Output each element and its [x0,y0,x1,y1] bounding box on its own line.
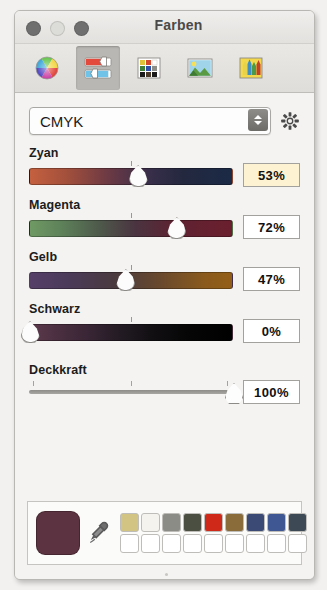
slider-group-magenta: Magenta 72% [29,198,300,239]
sliders-icon [82,53,114,83]
swatch-item-empty[interactable] [225,534,244,553]
slider-track-black[interactable] [29,320,233,342]
swatch-grid [120,513,307,553]
chevron-updown-icon[interactable] [248,109,268,131]
toolbar-item-crayons[interactable] [229,46,273,90]
swatch-item-empty[interactable] [246,534,265,553]
slider-value-black[interactable]: 0% [243,319,300,343]
slider-group-black: Schwarz 0% [29,302,300,343]
swatch-item[interactable] [120,513,139,532]
toolbar-item-color-palettes[interactable] [127,46,171,90]
opacity-tick [131,381,132,386]
slider-label-yellow: Gelb [29,250,300,264]
slider-group-opacity: Deckkraft 100% [29,363,300,404]
swatch-item-empty[interactable] [162,534,181,553]
swatch-item-empty[interactable] [141,534,160,553]
opacity-track-line [29,390,233,394]
slider-track-yellow[interactable] [29,268,233,290]
opacity-tick [227,381,228,386]
current-color-preview[interactable] [36,511,80,555]
toolbar-item-image-palettes[interactable] [178,46,222,90]
swatch-row-empty [120,534,307,553]
color-panel-window: Farben [14,10,315,580]
gear-icon[interactable] [280,111,300,131]
swatch-item-empty[interactable] [204,534,223,553]
color-model-value: CMYK [30,113,83,130]
slider-tick [131,265,132,270]
opacity-tick [33,381,34,386]
swatch-item[interactable] [246,513,265,532]
color-model-dropdown[interactable]: CMYK [29,107,271,135]
swatch-bar [27,501,302,565]
slider-track-magenta[interactable] [29,216,233,238]
panel-body: CMYK [15,93,314,579]
slider-value-cyan[interactable]: 53% [243,163,300,187]
color-model-row: CMYK [29,93,300,135]
slider-thumb-opacity[interactable] [225,383,243,404]
slider-label-opacity: Deckkraft [29,363,300,377]
slider-gradient-black [29,324,233,341]
resize-grip[interactable] [165,573,168,576]
slider-track-cyan[interactable] [29,164,233,186]
slider-group-yellow: Gelb 47% [29,250,300,291]
swatch-item[interactable] [267,513,286,532]
slider-label-magenta: Magenta [29,198,300,212]
swatch-item[interactable] [183,513,202,532]
toolbar-item-color-wheel[interactable] [25,46,69,90]
swatch-item-empty[interactable] [288,534,307,553]
slider-tick [131,213,132,218]
swatch-item[interactable] [204,513,223,532]
swatch-row-filled [120,513,307,532]
swatch-item[interactable] [162,513,181,532]
swatch-item[interactable] [141,513,160,532]
crayons-icon [235,53,267,83]
slider-track-opacity[interactable] [29,381,233,403]
slider-group-cyan: Zyan 53% [29,146,300,187]
mode-toolbar [15,44,314,93]
slider-value-magenta[interactable]: 72% [243,215,300,239]
slider-value-opacity[interactable]: 100% [243,380,300,404]
image-icon [184,53,216,83]
palette-grid-icon [133,53,165,83]
window-titlebar[interactable]: Farben [15,11,314,44]
swatch-item-empty[interactable] [183,534,202,553]
swatch-item[interactable] [225,513,244,532]
swatch-item-empty[interactable] [120,534,139,553]
slider-value-yellow[interactable]: 47% [243,267,300,291]
slider-label-cyan: Zyan [29,146,300,160]
swatch-item-empty[interactable] [267,534,286,553]
slider-gradient-magenta [29,220,233,237]
slider-label-black: Schwarz [29,302,300,316]
window-title: Farben [15,17,314,33]
eyedropper-icon[interactable] [88,518,112,548]
slider-tick [131,317,132,322]
color-wheel-icon [31,53,63,83]
swatch-item[interactable] [288,513,307,532]
slider-tick [131,161,132,166]
toolbar-item-color-sliders[interactable] [76,46,120,90]
